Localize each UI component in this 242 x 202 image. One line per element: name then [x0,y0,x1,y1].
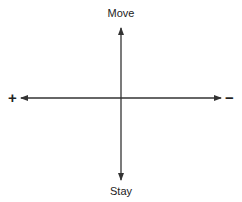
minus-sign: − [225,90,234,105]
axes-diagram [0,0,242,202]
plus-sign: + [8,90,17,105]
move-label: Move [101,7,141,19]
stay-label: Stay [101,185,141,197]
